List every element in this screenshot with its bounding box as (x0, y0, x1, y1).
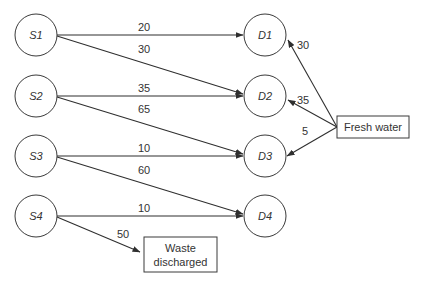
edge-label-s3-d4: 60 (138, 164, 150, 176)
water-network-diagram: 20 30 35 65 10 60 10 50 30 35 5 S1 S2 S3… (0, 0, 422, 283)
fresh-water-label: Fresh water (344, 121, 402, 133)
edges (57, 35, 337, 252)
edge-label-freshwater-d3: 5 (302, 125, 308, 137)
edge-freshwater-d3 (287, 127, 337, 156)
node-s4: S4 (15, 195, 57, 237)
node-label-s2: S2 (29, 90, 42, 102)
edge-label-s4-waste: 50 (117, 228, 129, 240)
edge-label-freshwater-d2: 35 (297, 94, 309, 106)
node-s1: S1 (15, 14, 57, 56)
node-s2: S2 (15, 75, 57, 117)
fresh-water-box: Fresh water (337, 116, 409, 138)
edge-label-s3-d3: 10 (138, 142, 150, 154)
node-label-s1: S1 (29, 29, 42, 41)
node-d2: D2 (244, 75, 286, 117)
node-label-d4: D4 (258, 210, 272, 222)
edge-label-s2-d2: 35 (138, 82, 150, 94)
source-nodes: S1 S2 S3 S4 (15, 14, 57, 237)
node-label-s4: S4 (29, 210, 42, 222)
edge-label-s2-d3: 65 (138, 103, 150, 115)
waste-label-line2: discharged (154, 256, 208, 268)
node-label-s3: S3 (29, 150, 43, 162)
waste-discharged-box: Waste discharged (144, 237, 217, 272)
node-d4: D4 (244, 195, 286, 237)
node-label-d2: D2 (258, 90, 272, 102)
node-d1: D1 (244, 14, 286, 56)
edge-label-s4-d4: 10 (138, 202, 150, 214)
node-label-d3: D3 (258, 150, 273, 162)
node-s3: S3 (15, 135, 57, 177)
edge-label-s1-d1: 20 (138, 21, 150, 33)
edge-label-freshwater-d1: 30 (297, 39, 309, 51)
node-label-d1: D1 (258, 29, 272, 41)
edge-label-s1-d2: 30 (138, 43, 150, 55)
sink-nodes: D1 D2 D3 D4 (244, 14, 286, 237)
waste-label-line1: Waste (165, 242, 196, 254)
node-d3: D3 (244, 135, 286, 177)
